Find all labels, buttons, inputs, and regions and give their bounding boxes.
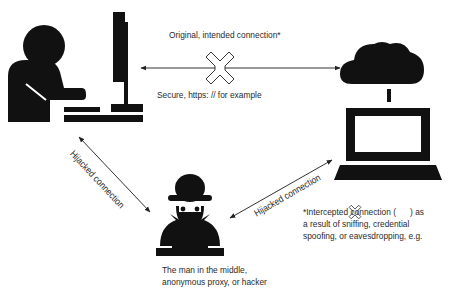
footnote-line2: a result of sniffing, credential [303, 218, 409, 230]
footnote-line1-before: *Intercepted connection ( [303, 206, 396, 217]
mitm-diagram: Original, intended connection* Secure, h… [0, 0, 453, 300]
attacker-label-line1: The man in the middle, [162, 264, 247, 276]
footnote-line1-after: ) as [410, 206, 424, 217]
intended-connection-label: Original, intended connection* [169, 29, 281, 41]
secure-https-label: Secure, https: // for example [157, 89, 262, 101]
footnote-line3: spoofing, or eavesdropping, e.g. [303, 230, 422, 242]
diagram-canvas [0, 0, 453, 300]
hacker-with-laptop-icon [156, 174, 224, 256]
person-at-desktop-computer-icon [8, 12, 143, 122]
cloud-connected-laptop-icon [334, 42, 442, 180]
attacker-label-line2: anonymous proxy, or hacker [162, 276, 267, 288]
footnote-line1: *Intercepted connection () as [303, 206, 424, 218]
